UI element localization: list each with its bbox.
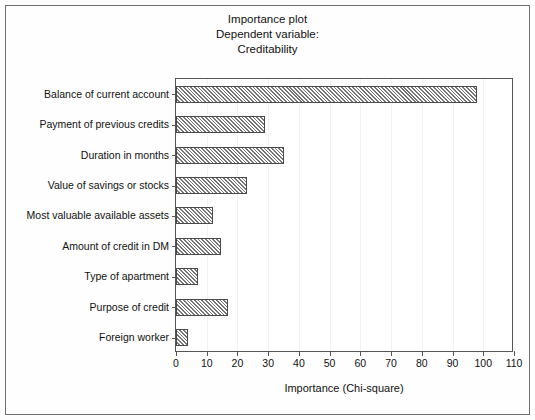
x-axis-tick (330, 351, 331, 356)
bar (176, 86, 477, 103)
bar (176, 329, 188, 346)
x-axis-tick-label: 10 (201, 357, 213, 369)
bar (176, 177, 247, 194)
x-axis-tick (453, 351, 454, 356)
y-axis-label: Most valuable available assets (27, 207, 169, 224)
x-axis-tick-label: 30 (262, 357, 274, 369)
y-axis-label: Duration in months (81, 147, 169, 164)
x-axis-tick (299, 351, 300, 356)
bar (176, 147, 284, 164)
bar-row: Amount of credit in DM (176, 231, 512, 261)
title-line-3: Creditability (0, 42, 535, 57)
x-axis-tick-label: 40 (293, 357, 305, 369)
x-axis-tick-label: 20 (232, 357, 244, 369)
bar-row: Payment of previous credits (176, 109, 512, 139)
bar-row: Value of savings or stocks (176, 170, 512, 200)
x-axis-tick (207, 351, 208, 356)
x-axis-tick-label: 90 (447, 357, 459, 369)
bar-row: Type of apartment (176, 262, 512, 292)
x-axis-tick (360, 351, 361, 356)
bar (176, 299, 228, 316)
x-axis-tick (268, 351, 269, 356)
bar (176, 207, 213, 224)
y-axis-label: Amount of credit in DM (62, 238, 169, 255)
x-axis-tick-label: 0 (173, 357, 179, 369)
x-axis-tick-label: 50 (324, 357, 336, 369)
x-axis-tick-label: 70 (385, 357, 397, 369)
bar (176, 116, 265, 133)
title-line-1: Importance plot (0, 12, 535, 27)
x-axis-tick (391, 351, 392, 356)
x-axis-tick (483, 351, 484, 356)
y-axis-label: Value of savings or stocks (48, 177, 169, 194)
plot-area: Balance of current accountPayment of pre… (175, 78, 513, 352)
x-axis-tick (176, 351, 177, 356)
bar-series: Balance of current accountPayment of pre… (176, 79, 512, 351)
title-line-2: Dependent variable: (0, 27, 535, 42)
bar (176, 268, 198, 285)
x-axis-tick-label: 80 (416, 357, 428, 369)
chart-figure: Importance plotDependent variable:Credit… (0, 0, 535, 420)
x-axis-tick-label: 110 (506, 357, 523, 369)
x-axis-tick (422, 351, 423, 356)
bar (176, 238, 221, 255)
bar-row: Balance of current account (176, 79, 512, 109)
x-axis-tick (237, 351, 238, 356)
y-axis-label: Foreign worker (99, 329, 169, 346)
chart-title: Importance plotDependent variable:Credit… (0, 12, 535, 57)
y-axis-label: Payment of previous credits (39, 116, 169, 133)
x-axis-title: Importance (Chi-square) (175, 382, 513, 394)
x-axis-tick-label: 100 (475, 357, 493, 369)
bar-row: Most valuable available assets (176, 201, 512, 231)
bar-row: Purpose of credit (176, 292, 512, 322)
y-axis-label: Purpose of credit (90, 299, 169, 316)
y-axis-label: Type of apartment (84, 268, 169, 285)
bar-row: Foreign worker (176, 323, 512, 353)
bar-row: Duration in months (176, 140, 512, 170)
x-axis-tick-label: 60 (355, 357, 367, 369)
y-axis-label: Balance of current account (44, 86, 169, 103)
x-axis-tick (514, 351, 515, 356)
